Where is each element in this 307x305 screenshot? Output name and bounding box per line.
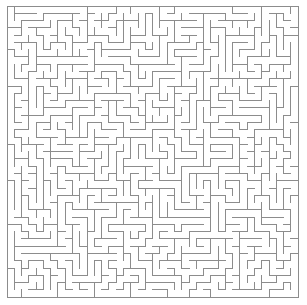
maze-page [0,0,307,305]
maze-canvas [0,0,307,305]
maze-wall-layer [7,6,298,297]
maze-background [0,0,307,305]
maze-figure [0,0,307,305]
